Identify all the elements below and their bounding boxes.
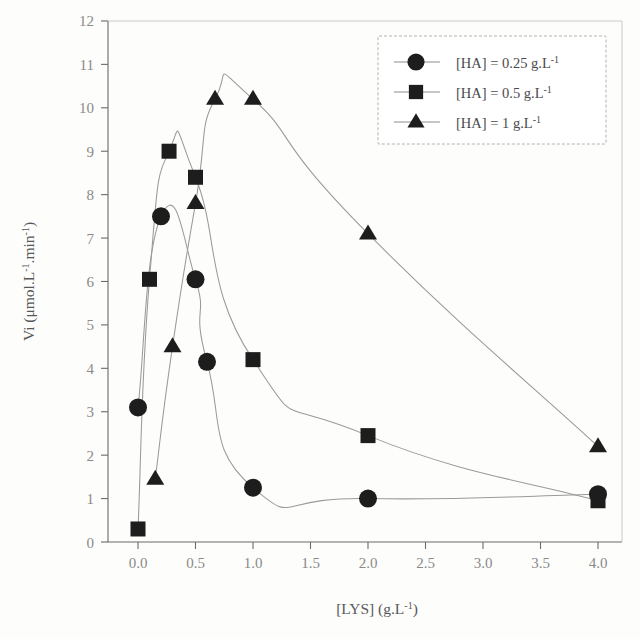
y-tick-label: 8 — [87, 187, 95, 203]
data-point-square — [162, 144, 177, 159]
series-markers-0 — [129, 207, 607, 507]
data-point-triangle — [146, 470, 164, 485]
data-point-square — [361, 428, 376, 443]
y-axis-title: Vi (μmol.L-1.min-1) — [20, 222, 38, 341]
data-point-circle — [244, 479, 262, 497]
chart-legend: [HA] = 0.25 g.L-1[HA] = 0.5 g.L-1[HA] = … — [378, 36, 606, 144]
x-tick-label: 0.5 — [186, 555, 205, 571]
data-point-square — [131, 521, 146, 536]
y-axis-ticks: 0123456789101112 — [79, 13, 108, 550]
y-tick-label: 7 — [87, 231, 95, 247]
data-point-circle — [187, 270, 205, 288]
y-tick-label: 1 — [87, 491, 95, 507]
x-tick-label: 4.0 — [589, 555, 608, 571]
data-point-circle — [152, 207, 170, 225]
x-tick-label: 1.5 — [301, 555, 320, 571]
data-point-triangle — [164, 337, 182, 352]
data-point-circle — [198, 353, 216, 371]
legend-label-0: [HA] = 0.25 g.L-1 — [456, 54, 559, 71]
data-point-square — [591, 493, 606, 508]
y-tick-label: 6 — [87, 274, 95, 290]
figure-container: 0.00.51.01.52.02.53.03.54.0 012345678910… — [0, 0, 640, 639]
series-line-1 — [138, 131, 598, 529]
y-tick-label: 11 — [80, 57, 94, 73]
x-axis-title: [LYS] (g.L-1) — [336, 600, 418, 618]
x-tick-label: 3.5 — [531, 555, 550, 571]
x-axis-title-text: [LYS] (g.L-1) — [336, 600, 418, 618]
series-markers-2 — [146, 90, 607, 485]
y-tick-label: 2 — [87, 448, 95, 464]
y-tick-label: 0 — [87, 535, 95, 551]
x-tick-label: 1.0 — [244, 555, 263, 571]
y-tick-label: 3 — [87, 404, 95, 420]
data-point-circle — [359, 490, 377, 508]
series-markers-group — [129, 90, 607, 537]
data-point-circle — [129, 398, 147, 416]
y-tick-label: 10 — [79, 100, 94, 116]
data-point-triangle — [206, 90, 224, 105]
data-point-square — [246, 352, 261, 367]
data-point-triangle — [589, 437, 607, 452]
x-tick-label: 0.0 — [129, 555, 148, 571]
x-tick-label: 2.5 — [416, 555, 435, 571]
x-tick-label: 2.0 — [359, 555, 378, 571]
x-axis-ticks: 0.00.51.01.52.02.53.03.54.0 — [129, 542, 608, 571]
legend-marker-square — [409, 85, 423, 99]
data-point-square — [142, 272, 157, 287]
legend-label-2: [HA] = 1 g.L-1 — [456, 114, 541, 131]
data-point-square — [188, 170, 203, 185]
y-tick-label: 9 — [87, 144, 95, 160]
y-tick-label: 5 — [87, 317, 95, 333]
legend-label-1: [HA] = 0.5 g.L-1 — [456, 84, 552, 101]
legend-marker-circle — [407, 53, 424, 70]
data-point-triangle — [244, 90, 262, 105]
chart-canvas: 0.00.51.01.52.02.53.03.54.0 012345678910… — [0, 0, 640, 639]
y-tick-label: 12 — [79, 13, 94, 29]
y-axis-title-text: Vi (μmol.L-1.min-1) — [20, 222, 38, 341]
y-tick-label: 4 — [87, 361, 95, 377]
x-tick-label: 3.0 — [474, 555, 493, 571]
